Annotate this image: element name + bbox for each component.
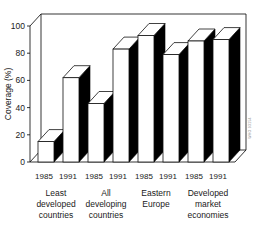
x-axis-year-labels: 1985 1991 1985 1991 1985 1991 1985 1991 xyxy=(35,172,227,181)
y-tick-label-100: 100 xyxy=(11,21,25,31)
group-label-1-line3: countries xyxy=(39,210,74,220)
y-tick-label-20: 20 xyxy=(16,130,26,140)
bar-group-developed-market xyxy=(188,28,240,162)
bar-1991-developed-market[interactable] xyxy=(213,28,240,162)
group-label-3-line2: Europe xyxy=(142,199,170,209)
group-label-2-line1: All xyxy=(101,188,111,198)
y-axis-ticks xyxy=(27,26,30,162)
y-tick-label-80: 80 xyxy=(16,48,26,58)
x-axis-group-labels: Least developed countries All developing… xyxy=(36,188,228,220)
source-code-label: WHO 93154 xyxy=(248,117,252,139)
y-tick-label-40: 40 xyxy=(16,103,26,113)
year-label-g1-1991: 1991 xyxy=(59,172,77,181)
bar-chart: 100 80 60 40 20 0 Coverage (%) xyxy=(0,0,262,230)
bar-1991-all-developing[interactable] xyxy=(113,37,140,162)
year-label-g1-1985: 1985 xyxy=(35,172,53,181)
year-label-g3-1985: 1985 xyxy=(135,172,153,181)
group-label-1-line2: developed xyxy=(36,199,76,209)
year-label-g4-1991: 1991 xyxy=(209,172,227,181)
bar-1985-developed-market[interactable] xyxy=(188,29,215,162)
year-label-g3-1991: 1991 xyxy=(159,172,177,181)
y-axis-title: Coverage (%) xyxy=(3,68,13,121)
chart-container: 100 80 60 40 20 0 Coverage (%) xyxy=(0,0,262,230)
bar-group-least-developed xyxy=(38,66,90,162)
group-label-2-line2: developing xyxy=(85,199,126,209)
group-label-4-line1: Developed xyxy=(188,188,229,198)
group-label-1-line1: Least xyxy=(46,188,67,198)
group-label-4-line3: economies xyxy=(187,210,228,220)
y-tick-label-0: 0 xyxy=(20,157,25,167)
year-label-g2-1985: 1985 xyxy=(85,172,103,181)
bar-group-eastern-europe xyxy=(138,24,190,163)
group-label-4-line2: market xyxy=(195,199,222,209)
bar-group-all-developing xyxy=(88,37,140,162)
bar-1991-eastern-europe[interactable] xyxy=(163,43,190,162)
bar-1985-eastern-europe[interactable] xyxy=(138,24,165,163)
y-tick-label-60: 60 xyxy=(16,75,26,85)
year-label-g4-1985: 1985 xyxy=(185,172,203,181)
group-label-2-line3: countries xyxy=(89,210,124,220)
bar-1985-least-developed[interactable] xyxy=(38,130,65,162)
bar-1991-least-developed[interactable] xyxy=(63,66,90,162)
year-label-g2-1991: 1991 xyxy=(109,172,127,181)
bar-1985-all-developing[interactable] xyxy=(88,92,115,163)
group-label-3-line1: Eastern xyxy=(141,188,171,198)
